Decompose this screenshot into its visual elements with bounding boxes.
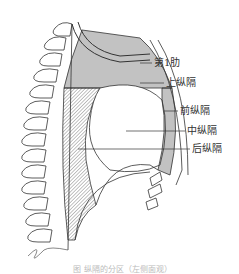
label-middle-mediastinum: 中纵隔 <box>187 126 217 136</box>
label-anterior-mediastinum: 前纵隔 <box>180 106 210 116</box>
figure-caption: 图 纵隔的分区（左侧面观） <box>40 266 205 274</box>
label-posterior-mediastinum: 后纵隔 <box>192 144 222 154</box>
label-first-rib: 第1肋 <box>154 58 180 68</box>
middle-mediastinum <box>89 85 165 172</box>
label-superior-mediastinum: 上纵隔 <box>166 78 196 88</box>
